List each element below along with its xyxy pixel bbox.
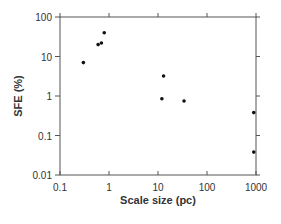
x-tick-label: 1000 — [245, 182, 268, 193]
x-tick-label: 0.1 — [53, 182, 67, 193]
y-tick-label: 10 — [41, 52, 53, 63]
x-tick-label: 100 — [199, 182, 216, 193]
data-point — [96, 43, 100, 47]
data-point — [252, 150, 256, 154]
plot-frame — [60, 17, 256, 175]
y-axis-label: SFE (%) — [12, 75, 24, 117]
data-point — [182, 99, 186, 103]
data-point — [162, 74, 166, 78]
scatter-chart: 0.11101001000 0.010.1110100 Scale size (… — [0, 0, 281, 224]
data-point — [252, 111, 256, 115]
plot-border — [60, 17, 256, 175]
y-tick-label: 0.1 — [38, 131, 52, 142]
y-tick-label: 0.01 — [33, 170, 53, 181]
data-point — [100, 41, 104, 45]
data-point — [160, 97, 164, 101]
data-points — [82, 31, 256, 154]
y-tick-label: 100 — [35, 12, 52, 23]
data-point — [102, 31, 106, 35]
y-axis-ticks: 0.010.1110100 — [33, 12, 260, 181]
x-tick-label: 10 — [152, 182, 164, 193]
x-tick-label: 1 — [106, 182, 112, 193]
y-tick-label: 1 — [46, 91, 52, 102]
x-axis-ticks: 0.11101001000 — [53, 13, 268, 193]
data-point — [82, 61, 86, 65]
x-axis-label: Scale size (pc) — [120, 194, 196, 206]
